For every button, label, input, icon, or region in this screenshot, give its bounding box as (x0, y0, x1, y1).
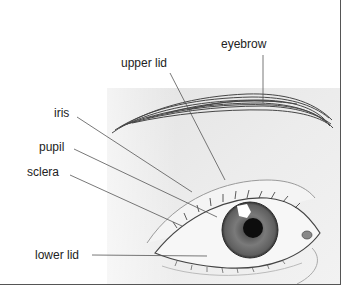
eye-illustration (107, 88, 340, 284)
label-eyebrow: eyebrow (221, 37, 266, 51)
frame-bottom-border (0, 284, 341, 285)
label-iris: iris (54, 106, 69, 120)
frame-right-border (340, 0, 341, 285)
label-lower-lid: lower lid (35, 248, 79, 262)
tear-duct (302, 231, 312, 239)
label-upper-lid: upper lid (121, 56, 167, 70)
pupil-shape (243, 218, 263, 238)
label-sclera: sclera (27, 165, 59, 179)
label-pupil: pupil (39, 140, 64, 154)
